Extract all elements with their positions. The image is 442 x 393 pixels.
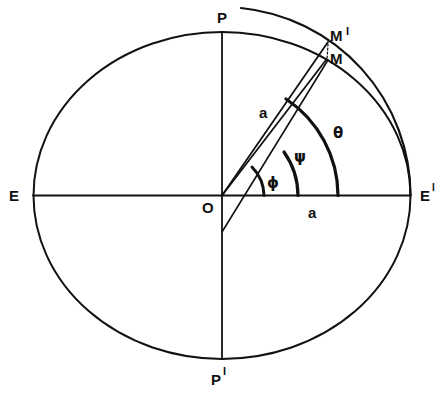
label-angle-phi: ϕ xyxy=(267,176,279,191)
label-angle-theta: θ xyxy=(333,126,343,141)
label-east-right: E xyxy=(420,188,430,203)
label-north-pole: P xyxy=(217,10,227,25)
label-origin: O xyxy=(202,200,214,215)
label-angle-psi: ψ xyxy=(294,150,306,165)
ellipse-latitude-diagram xyxy=(0,0,442,393)
m-prime-to-m-dotted xyxy=(327,44,328,60)
label-horizontal-a: a xyxy=(308,205,316,220)
label-east-left: E xyxy=(9,188,19,203)
line-o-m-prime xyxy=(222,42,328,196)
label-m-prime: M xyxy=(330,28,343,43)
label-radius-a: a xyxy=(259,105,267,120)
label-east-right-prime: I xyxy=(432,183,435,193)
label-m-prime-mark: I xyxy=(346,26,349,37)
label-south-pole: P xyxy=(211,372,221,387)
label-south-pole-prime: I xyxy=(223,366,226,377)
label-m: M xyxy=(330,51,343,66)
